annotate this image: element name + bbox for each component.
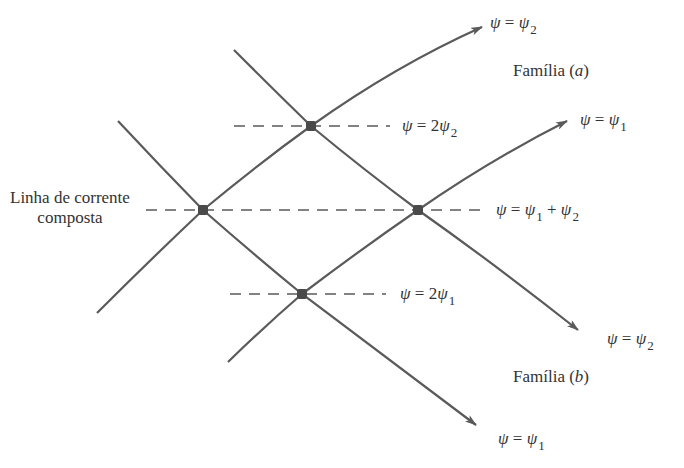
curve-family-a-psi1 (228, 121, 567, 362)
label-family-a: Família (a) (513, 62, 589, 79)
intersection-point-left (198, 205, 208, 215)
label-a-psi1: ψ = ψ1 (580, 111, 627, 128)
intersection-point-top (306, 121, 316, 131)
label-composite-streamline: Linha de corrente composta (10, 188, 130, 228)
label-psi1-plus-psi2: ψ = ψ1 + ψ2 (496, 201, 579, 218)
label-family-b: Família (b) (513, 368, 589, 385)
label-b-psi1: ψ = ψ1 (498, 430, 545, 447)
label-2psi2: ψ = 2ψ2 (402, 117, 457, 134)
label-b-psi2: ψ = ψ2 (607, 330, 654, 347)
label-2psi1: ψ = 2ψ1 (400, 285, 455, 302)
curve-family-b-psi1 (118, 121, 476, 425)
intersection-point-bottom (297, 289, 307, 299)
label-a-psi2: ψ = ψ2 (490, 14, 537, 31)
curve-family-a-psi2 (97, 27, 482, 313)
intersection-point-right (413, 205, 423, 215)
